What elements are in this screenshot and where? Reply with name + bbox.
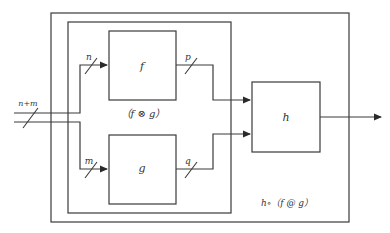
input-wire-label: n+m [18,99,38,108]
input-bundle-slash-icon [23,108,38,128]
q-wire-label: q [185,156,191,166]
m-wire-label: m [85,156,94,166]
block-g-label: g [138,162,145,175]
outer-group-label: h∘（f @ g） [261,198,313,208]
p-wire-label: p [185,52,191,62]
block-h-label: h [282,111,289,124]
composition-diagram: f g h n+m n m p q （f ⊗ g） h∘（f @ g） [0,0,390,233]
wire-f-to-h [176,65,250,100]
inner-group-label: （f ⊗ g） [121,108,166,119]
n-wire-label: n [86,52,92,62]
